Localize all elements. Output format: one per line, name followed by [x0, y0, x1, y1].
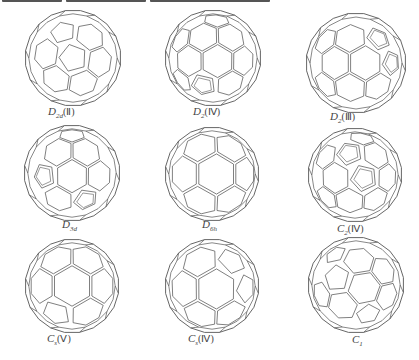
symmetry-label-d2-iv: D2(Ⅳ) [193, 105, 220, 120]
label-main: D [48, 105, 56, 117]
label-subscript: 3d [70, 225, 77, 233]
label-isomer-number: (Ⅴ) [57, 333, 71, 344]
fullerene-cage-d3d [25, 126, 120, 221]
symmetry-label-d2-iii: D2(Ⅲ) [330, 110, 355, 125]
label-isomer-number: (Ⅱ) [63, 106, 75, 117]
label-main: D [62, 218, 70, 230]
symmetry-label-cs-v: Cs(Ⅴ) [47, 332, 71, 347]
label-subscript: 1 [359, 340, 363, 348]
fullerene-cage-cs-v [26, 240, 119, 333]
fullerene-figure [0, 0, 419, 360]
label-isomer-number: (Ⅲ) [341, 111, 355, 122]
label-main: D [330, 110, 338, 122]
symmetry-label-c2-iv: C2(Ⅳ) [337, 222, 364, 237]
label-main: D [202, 218, 210, 230]
fullerene-cage-c2-iv [309, 129, 402, 222]
symmetry-label-cs-iv: Cs(Ⅳ) [188, 332, 214, 347]
fullerene-cage-d2-iv [166, 11, 261, 106]
fullerene-cage-d6h [166, 128, 259, 221]
label-main: D [193, 105, 201, 117]
symmetry-label-d3d: D3d [62, 218, 77, 233]
symmetry-label-d6h: D6h [202, 218, 217, 233]
symmetry-label-d2d-ii: D2d(Ⅱ) [48, 105, 75, 120]
symmetry-label-c1: C1 [352, 333, 363, 348]
label-subscript: 2d [56, 112, 63, 120]
label-isomer-number: (Ⅳ) [198, 333, 214, 344]
fullerene-cage-c1 [309, 238, 404, 333]
fullerene-cage-d2d-ii [26, 11, 121, 106]
label-isomer-number: (Ⅳ) [348, 223, 364, 234]
label-isomer-number: (Ⅳ) [204, 106, 220, 117]
fullerene-cage-cs-iv [166, 240, 259, 333]
fullerene-cage-d2-iii [307, 14, 406, 113]
label-subscript: 6h [210, 225, 217, 233]
